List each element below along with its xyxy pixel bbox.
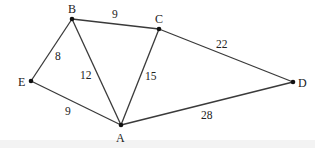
edge-b-c — [72, 19, 159, 29]
node-label-d: D — [298, 76, 307, 90]
node-a-dot — [119, 123, 124, 128]
node-label-b: B — [68, 2, 76, 16]
nodes: BCEAD — [18, 2, 307, 145]
node-label-c: C — [155, 12, 163, 26]
edge-weights: 98121522928 — [55, 8, 228, 121]
node-d-dot — [291, 80, 296, 85]
edge-c-d — [159, 29, 293, 82]
node-e-dot — [29, 79, 34, 84]
edge-weight-c-a: 15 — [145, 70, 157, 82]
edge-e-a — [31, 81, 121, 125]
edge-weight-e-a: 9 — [65, 105, 71, 117]
edge-weight-b-a: 12 — [80, 69, 92, 81]
edge-weight-a-d: 28 — [201, 109, 213, 121]
node-label-e: E — [18, 75, 25, 89]
edge-weight-b-e: 8 — [55, 50, 61, 62]
edge-weight-b-c: 9 — [112, 8, 118, 20]
node-c-dot — [157, 27, 162, 32]
weighted-graph: 98121522928 BCEAD — [0, 0, 315, 148]
edge-b-e — [31, 19, 72, 81]
edge-weight-c-d: 22 — [216, 38, 228, 50]
node-b-dot — [70, 17, 75, 22]
node-label-a: A — [116, 131, 125, 145]
